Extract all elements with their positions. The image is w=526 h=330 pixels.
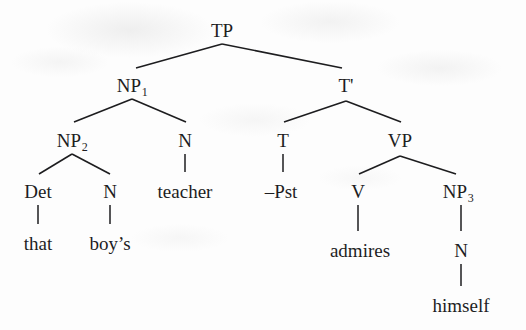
edge-vp-np3 [400, 156, 456, 174]
edge-vp-v [359, 156, 400, 174]
leaf-word-that: that [24, 234, 53, 253]
node-np1-label: NP [117, 75, 141, 96]
node-n-teacher-label: N [178, 130, 192, 151]
node-v-label: V [351, 181, 365, 202]
node-det-label: Det [24, 181, 51, 202]
node-np3-subscript: 3 [468, 191, 474, 205]
node-t-bar-label: T' [338, 75, 353, 96]
tree-edges [0, 0, 526, 330]
node-np1: NP1 [117, 76, 147, 95]
node-v: V [351, 182, 365, 201]
node-np1-subscript: 1 [142, 85, 148, 99]
edge-np2-n2 [72, 154, 110, 174]
node-vp: VP [388, 131, 412, 150]
edge-tp-np1 [136, 44, 222, 68]
node-n-boys: N [103, 182, 117, 201]
node-n-teacher: N [178, 131, 192, 150]
node-tp-label: TP [211, 20, 233, 41]
node-n-himself: N [454, 241, 468, 260]
edge-tbar-t [284, 101, 346, 122]
edge-tbar-vp [346, 101, 401, 122]
edge-np1-np2 [74, 99, 132, 122]
leaf-word-himself: himself [433, 296, 490, 315]
node-np3: NP3 [443, 182, 473, 201]
edge-np1-n1 [132, 99, 186, 122]
leaf-word-pst: –Pst [265, 182, 298, 201]
node-np3-label: NP [443, 181, 467, 202]
node-np2-subscript: 2 [82, 140, 88, 154]
leaf-word-teacher: teacher [158, 182, 213, 201]
node-np2: NP2 [57, 131, 87, 150]
node-t: T [277, 131, 289, 150]
leaf-word-boys: boy’s [89, 234, 130, 253]
node-t-bar: T' [338, 76, 353, 95]
leaf-word-admires: admires [330, 241, 390, 260]
node-n-himself-label: N [454, 240, 468, 261]
node-t-label: T [277, 130, 289, 151]
edge-np2-det [39, 154, 72, 174]
node-vp-label: VP [388, 130, 412, 151]
edge-tp-tbar [222, 44, 342, 68]
node-np2-label: NP [57, 130, 81, 151]
node-n-boys-label: N [103, 181, 117, 202]
node-tp: TP [211, 21, 233, 40]
node-det: Det [24, 182, 51, 201]
syntax-tree-diagram: TP NP1 T' NP2 N T VP Det N V NP3 N teach… [0, 0, 526, 330]
paper-scan-texture [0, 0, 526, 330]
